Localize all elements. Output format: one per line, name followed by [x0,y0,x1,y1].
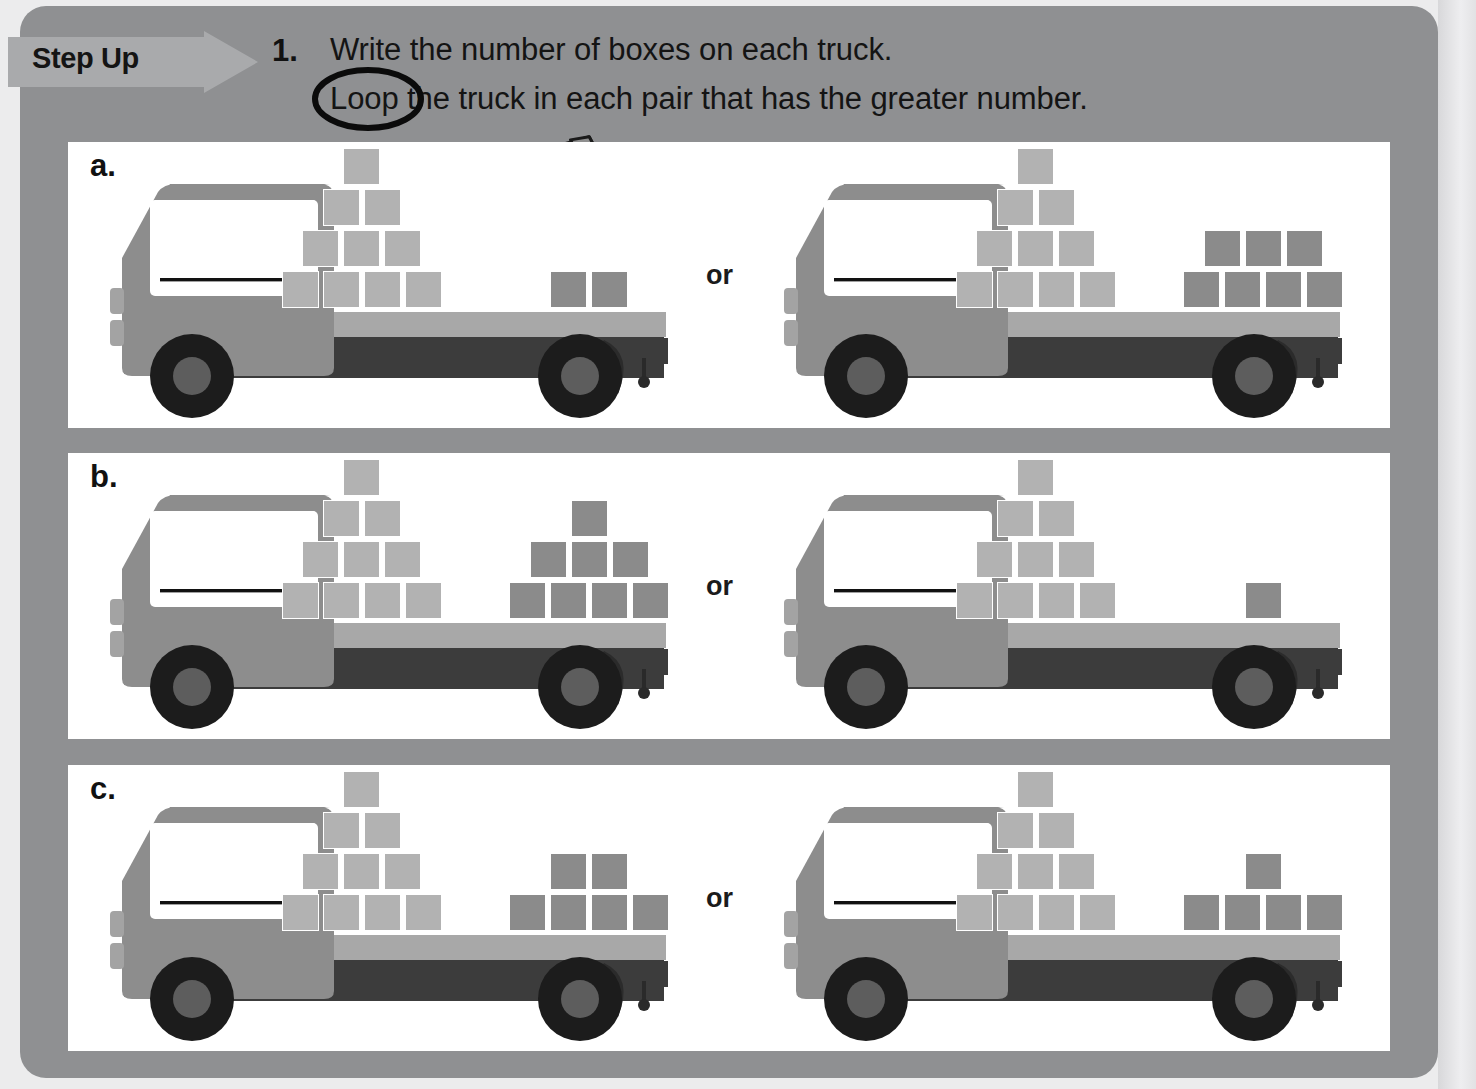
tow-hitch [634,649,668,675]
truck-a-left-pyramid-row [274,189,449,230]
box [1038,500,1075,537]
box [612,541,649,578]
box [1079,894,1116,931]
truck-mirror [784,599,798,625]
truck-b-left-group-row [500,582,678,623]
truck-b-left-group [500,500,678,623]
hitch-ball [1312,999,1324,1011]
truck-a-right-pyramid-row [948,148,1123,189]
truck-a-left-pyramid [274,148,449,312]
truck-a-right-group [1174,230,1352,312]
box [384,853,421,890]
box [1286,230,1323,267]
hitch-ball [638,999,650,1011]
box [550,582,587,619]
box [571,541,608,578]
box [509,894,546,931]
truck-c-right-pyramid-row [948,853,1123,894]
or-label-a: or [706,260,733,291]
truck-mirror [110,288,124,314]
truck-c-left-group [500,853,678,935]
truck-b-right-group [1174,582,1352,623]
box [364,271,401,308]
truck-bumper-nub [110,631,124,657]
box [364,582,401,619]
box [1224,271,1261,308]
truck-b-left-pyramid-row [274,500,449,541]
truck-bumper-nub [784,943,798,969]
front-hubcap [173,668,211,706]
truck-bumper-nub [110,943,124,969]
truck-a-left-group [500,271,678,312]
box [956,894,993,931]
rear-hubcap [1235,980,1273,1018]
truck-b-left[interactable] [106,473,706,729]
box [550,853,587,890]
box [1038,894,1075,931]
box [302,230,339,267]
box [591,271,628,308]
truck-c-left-pyramid-row [274,771,449,812]
rear-hubcap [561,980,599,1018]
rear-hubcap [561,357,599,395]
box [956,271,993,308]
tow-hitch [634,961,668,987]
front-hubcap [173,980,211,1018]
truck-b-left-pyramid-row [274,541,449,582]
truck-b-right[interactable] [780,473,1380,729]
or-label-b: or [706,571,733,602]
step-up-banner: Step Up [8,31,258,93]
box [1079,582,1116,619]
box [1245,582,1282,619]
box [343,853,380,890]
truck-a-right-pyramid [948,148,1123,312]
truck-b-right-group-row [1174,582,1352,623]
box [509,582,546,619]
box [282,271,319,308]
truck-c-left-group-row [500,853,678,894]
instruction-line-2: Loop the truck in each pair that has the… [330,81,1088,117]
truck-a-left-group-row [500,271,678,312]
box [1038,189,1075,226]
rear-hubcap [1235,668,1273,706]
box [550,271,587,308]
truck-b-left-group-row [500,541,678,582]
front-hubcap [847,980,885,1018]
truck-a-left-pyramid-row [274,271,449,312]
truck-a-left[interactable] [106,162,706,418]
box [550,894,587,931]
box [323,500,360,537]
box [1183,271,1220,308]
box [1058,230,1095,267]
rear-hubcap [1235,357,1273,395]
box [1306,271,1343,308]
box [1017,459,1054,496]
box [997,894,1034,931]
box [530,541,567,578]
truck-c-left-pyramid-row [274,853,449,894]
truck-a-right-group-row [1174,230,1352,271]
box [323,582,360,619]
truck-b-right-pyramid [948,459,1123,623]
truck-c-right[interactable] [780,785,1380,1041]
front-hubcap [847,357,885,395]
box [282,582,319,619]
truck-a-right-pyramid-row [948,271,1123,312]
truck-a-right-group-row [1174,271,1352,312]
box [384,541,421,578]
truck-c-left[interactable] [106,785,706,1041]
box [323,894,360,931]
truck-c-right-group [1174,853,1352,935]
truck-c-left-pyramid-row [274,812,449,853]
box [405,582,442,619]
truck-c-right-group-row [1174,853,1352,894]
truck-mirror [784,288,798,314]
truck-a-right[interactable] [780,162,1380,418]
box [997,812,1034,849]
rear-hubcap [561,668,599,706]
box [1017,853,1054,890]
instruction-line-1: Write the number of boxes on each truck. [330,32,892,68]
truck-c-right-pyramid-row [948,812,1123,853]
box [343,771,380,808]
page-edge-sheen [1438,0,1476,1089]
